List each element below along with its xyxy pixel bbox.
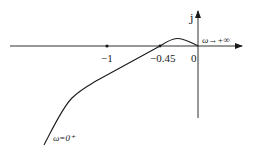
nyquist-diagram: j −1 −0.45 0 ω=0⁺ ω→+∞: [0, 0, 254, 158]
minus-one-label: −1: [101, 52, 113, 64]
imaginary-axis-label: j: [188, 12, 193, 25]
end-annotation: ω→+∞: [202, 35, 230, 45]
start-annotation: ω=0⁺: [53, 133, 76, 143]
origin-label: 0: [191, 52, 197, 64]
crossing-label: −0.45: [150, 52, 176, 64]
minus-one-point: [105, 44, 108, 47]
